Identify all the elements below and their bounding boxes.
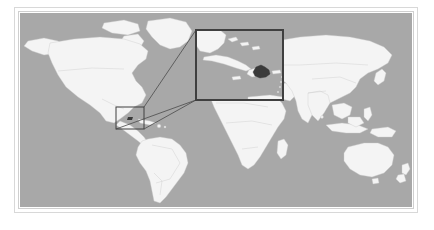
land-tasmania xyxy=(372,178,379,184)
inset-land-lesser-antilles-4 xyxy=(277,91,279,93)
figure-root: Grey world map showing the location of t… xyxy=(0,0,434,230)
inset-land-lesser-antilles-2 xyxy=(280,81,282,83)
inset-land-lesser-antilles-3 xyxy=(279,86,281,88)
land-puertorico-small xyxy=(164,126,166,128)
figure-alt-text: Grey world map showing the location of t… xyxy=(0,0,1,1)
world-map-svg xyxy=(20,13,412,207)
land-sri-lanka xyxy=(321,116,324,119)
world-map-viewport xyxy=(20,13,412,207)
locator-highlight-marker xyxy=(127,117,133,120)
caribbean-inset-panel xyxy=(196,30,283,100)
land-hispaniola-small xyxy=(157,124,161,128)
